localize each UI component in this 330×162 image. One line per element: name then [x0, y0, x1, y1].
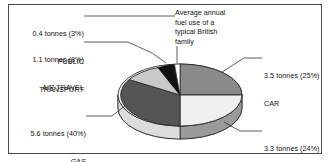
- chart-title-line-4: family: [175, 37, 255, 47]
- chart-title-line-2: fuel use of a: [175, 18, 255, 28]
- pie-chart-screenshot: Average annual fuel use of a typical Bri…: [0, 0, 330, 162]
- label-gas-name: GAS: [6, 157, 86, 162]
- label-car: 3.5 tonnes (25%) CAR: [264, 53, 328, 127]
- chart-stage: Average annual fuel use of a typical Bri…: [0, 0, 330, 162]
- label-gas: 5.6 tonnes (40%) GAS: [6, 111, 86, 162]
- label-air-travel-name: AIR TRAVEL: [10, 83, 84, 92]
- label-electricity-value: 3.3 tonnes (24%): [264, 144, 328, 153]
- leader-line-car: [222, 58, 262, 72]
- label-air-travel-value: 1.1 tonnes (8%): [10, 55, 84, 64]
- leader-line-gas: [86, 105, 126, 116]
- label-car-value: 3.5 tonnes (25%): [264, 71, 328, 80]
- leader-line-public-transport: [84, 16, 177, 63]
- leader-line-electricity: [224, 122, 262, 131]
- leader-line-air-travel: [84, 42, 166, 63]
- chart-title-line-3: typical British: [175, 27, 255, 37]
- label-air-travel: 1.1 tonnes (8%) AIR TRAVEL: [10, 37, 84, 111]
- chart-title-line-1: Average annual: [175, 8, 255, 18]
- label-electricity: 3.3 tonnes (24%) ELECTRICITY: [264, 126, 328, 162]
- label-car-name: CAR: [264, 99, 328, 108]
- chart-title: Average annual fuel use of a typical Bri…: [175, 8, 255, 46]
- label-gas-value: 5.6 tonnes (40%): [6, 129, 86, 138]
